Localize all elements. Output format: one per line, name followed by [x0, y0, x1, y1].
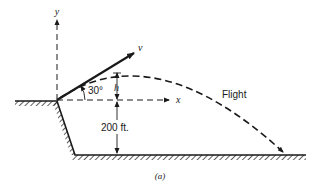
terrain [15, 101, 306, 160]
angle-label: 30° [88, 85, 103, 96]
angle-arc [81, 86, 85, 100]
projectile-diagram: y x v 30° Flight h 200 ft. (a) [0, 0, 328, 187]
velocity-label: v [138, 42, 143, 53]
cliff-height-label: 200 ft. [101, 122, 129, 133]
h-label: h [114, 82, 119, 93]
x-axis-label: x [175, 94, 181, 105]
figure-caption: (a) [155, 171, 166, 181]
flight-label: Flight [222, 89, 247, 100]
y-axis-label: y [54, 6, 60, 17]
